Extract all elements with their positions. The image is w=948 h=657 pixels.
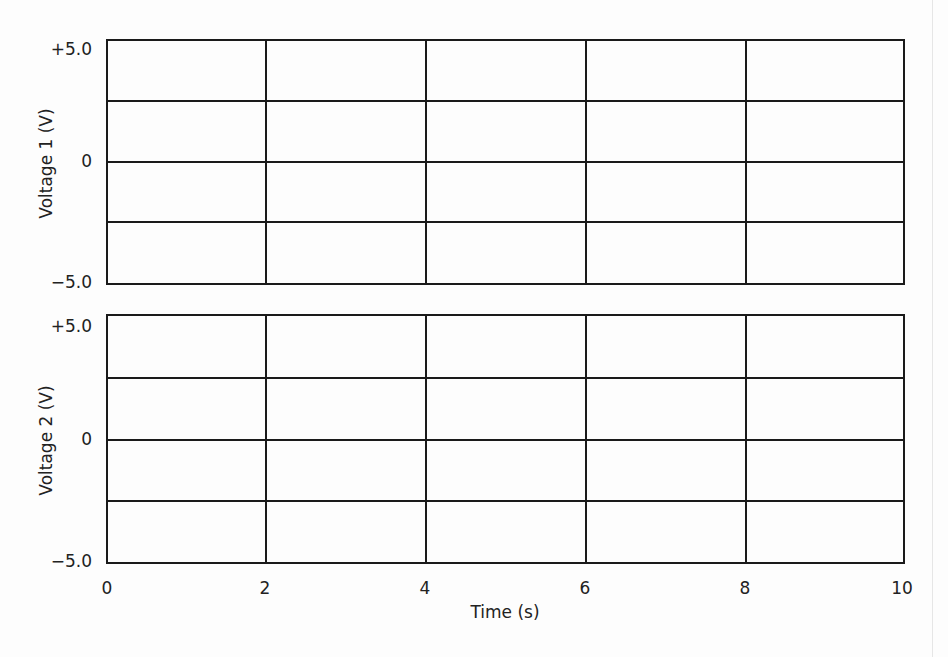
- gridline-h: [108, 377, 903, 379]
- gridline-v: [425, 41, 427, 283]
- gridline-v: [265, 41, 267, 283]
- gridline-h: [108, 221, 903, 223]
- x-tick-4: 4: [420, 580, 431, 597]
- gridline-v: [265, 316, 267, 562]
- x-tick-10: 10: [891, 580, 913, 597]
- gridline-v: [745, 316, 747, 562]
- x-tick-8: 8: [740, 580, 751, 597]
- gridline-v: [425, 316, 427, 562]
- voltage-1-ytick-zero: 0: [22, 153, 92, 170]
- voltage-2-axis-label: Voltage 2 (V): [38, 385, 55, 495]
- voltage-1-axis-label: Voltage 1 (V): [38, 108, 55, 218]
- voltage-1-plot-area: [106, 39, 905, 285]
- x-tick-2: 2: [260, 580, 271, 597]
- page-edge-shadow: [932, 0, 933, 657]
- voltage-2-ytick-zero: 0: [22, 431, 92, 448]
- voltage-2-ytick-min: −5.0: [22, 553, 92, 570]
- x-axis-label: Time (s): [470, 604, 539, 621]
- gridline-h-zero: [108, 161, 903, 163]
- gridline-h-zero: [108, 439, 903, 441]
- x-tick-6: 6: [580, 580, 591, 597]
- voltage-2-plot-area: [106, 314, 905, 564]
- gridline-v: [585, 316, 587, 562]
- gridline-v: [585, 41, 587, 283]
- gridline-v: [745, 41, 747, 283]
- voltage-1-ytick-max: +5.0: [22, 41, 92, 58]
- gridline-h: [108, 500, 903, 502]
- gridline-h: [108, 100, 903, 102]
- x-tick-0: 0: [102, 580, 113, 597]
- voltage-2-ytick-max: +5.0: [22, 318, 92, 335]
- voltage-1-ytick-min: −5.0: [22, 274, 92, 291]
